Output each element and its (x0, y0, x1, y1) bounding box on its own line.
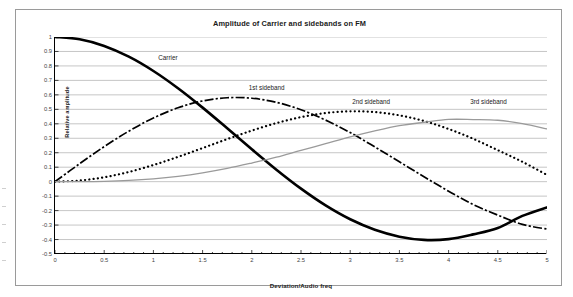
y-tick-label: 1 (49, 34, 52, 40)
plot-area: Relative amplitude 10.90.80.70.60.50.40.… (54, 37, 546, 254)
y-tick-label: 0.2 (44, 150, 52, 156)
series-annotation-3rd-sideband: 3rd sideband (470, 98, 506, 105)
y-tick-label: 0.6 (44, 92, 52, 98)
x-tick-label: 4.5 (494, 257, 502, 263)
x-tick-marks (55, 37, 547, 254)
x-tick-label: 4 (447, 257, 450, 263)
x-tick-label: 5 (545, 257, 548, 263)
series-annotation-carrier: Carrier (158, 54, 177, 61)
y-tick-label: 0.1 (44, 164, 52, 170)
x-tick-label: 3.5 (395, 257, 403, 263)
series-annotation-2nd-sideband: 2nd sideband (352, 98, 390, 105)
y-tick-label: 0.5 (44, 106, 52, 112)
x-tick-label: 1 (152, 257, 155, 263)
series-line-2nd-sideband (55, 111, 547, 181)
y-tick-label: 0.8 (44, 63, 52, 69)
y-tick-label: 0.7 (44, 77, 52, 83)
series-line-1st-sideband (55, 97, 547, 229)
chart-frame: Amplitude of Carrier and sidebands on FM… (15, 9, 562, 286)
gridlines (55, 37, 547, 254)
y-tick-label: 0.4 (44, 121, 52, 127)
y-tick-label: -0.1 (42, 193, 52, 199)
chart-page: Amplitude of Carrier and sidebands on FM… (0, 0, 573, 297)
plot-canvas (55, 37, 547, 254)
x-tick-label: 3 (349, 257, 352, 263)
series-line-3rd-sideband (55, 119, 547, 181)
y-tick-label: 0.3 (44, 135, 52, 141)
x-axis-label: Deviation/Audio freq (55, 282, 547, 289)
page-edge-artifacts (2, 188, 10, 284)
chart-title: Amplitude of Carrier and sidebands on FM (16, 19, 563, 28)
y-tick-label: -0.3 (42, 222, 52, 228)
x-tick-label: 0.5 (100, 257, 108, 263)
y-tick-label: 0 (49, 179, 52, 185)
y-tick-label: -0.4 (42, 237, 52, 243)
x-tick-label: 1.5 (199, 257, 207, 263)
x-tick-label: 2.5 (297, 257, 305, 263)
series-annotation-1st-sideband: 1st sideband (249, 84, 285, 91)
x-tick-label: 2 (250, 257, 253, 263)
y-tick-label: -0.2 (42, 208, 52, 214)
y-tick-label: 0.9 (44, 48, 52, 54)
y-tick-label: -0.5 (42, 251, 52, 257)
x-tick-label: 0 (53, 257, 56, 263)
